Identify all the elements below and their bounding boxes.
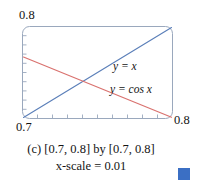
y-axis-ticks xyxy=(23,36,27,110)
blue-square-marker xyxy=(178,168,190,180)
cosine-line-label: y = cos x xyxy=(110,84,152,96)
y-axis-max-label: 0.8 xyxy=(19,9,35,22)
caption-line-range: (c) [0.7, 0.8] by [0.7, 0.8] xyxy=(0,141,182,158)
figure-caption: (c) [0.7, 0.8] by [0.7, 0.8] x-scale = 0… xyxy=(0,141,182,175)
axis-origin-label: 0.7 xyxy=(16,121,32,134)
identity-line xyxy=(24,28,172,118)
figure-container: 0.8 0.7 0.8 y = x y = cos x (c) [0.7, 0.… xyxy=(0,0,199,187)
identity-line-label: y = x xyxy=(113,61,137,73)
caption-line-scale: x-scale = 0.01 xyxy=(0,158,182,175)
x-axis-max-label: 0.8 xyxy=(174,114,190,127)
x-axis-ticks xyxy=(38,115,158,119)
